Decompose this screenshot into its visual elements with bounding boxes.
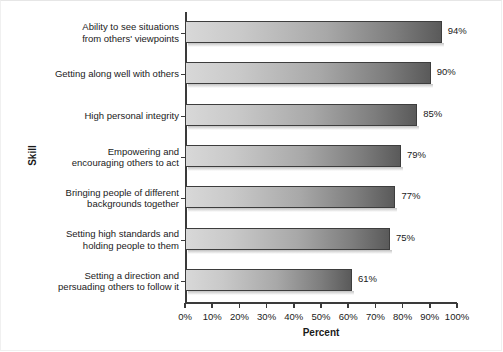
x-axis-tick <box>239 303 241 308</box>
bar-shadow <box>188 250 392 254</box>
x-axis-tick-label: 40% <box>284 311 303 322</box>
x-axis-tick <box>402 303 404 308</box>
x-axis-tick-label: 90% <box>420 311 439 322</box>
bar-row: 77% <box>185 186 457 210</box>
bar[interactable] <box>186 228 390 250</box>
bar[interactable] <box>186 62 431 84</box>
bar-value-label: 77% <box>401 190 420 201</box>
x-axis-tick <box>429 303 431 308</box>
bar-value-label: 75% <box>396 232 415 243</box>
bar-shadow <box>188 126 419 130</box>
bar-shadow <box>188 208 397 212</box>
bar-value-label: 94% <box>448 25 467 36</box>
x-axis-tick-label: 100% <box>445 311 469 322</box>
category-label-line: Getting along well with others <box>13 68 179 80</box>
x-axis-title: Percent <box>185 327 457 338</box>
x-axis-tick-label: 80% <box>393 311 412 322</box>
category-label-line: from others' viewpoints <box>13 33 179 45</box>
x-axis-tick <box>375 303 377 308</box>
x-axis-tick <box>320 303 322 308</box>
category-label-line: encouraging others to act <box>13 157 179 169</box>
bar-shadow <box>188 43 444 47</box>
bar-value-label: 79% <box>407 149 426 160</box>
bar-value-label: 85% <box>423 108 442 119</box>
category-label-line: Bringing people of different <box>13 187 179 199</box>
bar-shadow <box>188 291 354 295</box>
bar-row: 61% <box>185 269 457 293</box>
x-axis-tick-label: 50% <box>311 311 330 322</box>
bar-chart: Skill Ability to see situationsfrom othe… <box>0 0 503 352</box>
bar-shadow <box>188 84 433 88</box>
bar[interactable] <box>186 21 442 43</box>
x-axis-tick <box>347 303 349 308</box>
category-label-line: Setting a direction and <box>13 270 179 282</box>
category-label-line: Ability to see situations <box>13 21 179 33</box>
x-axis-tick <box>456 303 458 308</box>
x-axis-tick-label: 20% <box>230 311 249 322</box>
category-label-line: persuading others to follow it <box>13 281 179 293</box>
category-label: Setting high standards andholding people… <box>13 228 185 251</box>
x-axis-tick-label: 0% <box>178 311 192 322</box>
category-label: Empowering andencouraging others to act <box>13 146 185 169</box>
bar-row: 75% <box>185 228 457 252</box>
category-label: Setting a direction andpersuading others… <box>13 270 185 293</box>
bar-value-label: 90% <box>437 66 456 77</box>
bar[interactable] <box>186 186 395 208</box>
category-label-layer: Ability to see situationsfrom others' vi… <box>0 12 185 302</box>
plot-area: 0%10%20%30%40%50%60%70%80%90%100%94%90%8… <box>185 12 457 302</box>
bar-value-label: 61% <box>358 273 377 284</box>
bar[interactable] <box>186 104 417 126</box>
bar[interactable] <box>186 269 352 291</box>
category-label: Getting along well with others <box>13 68 185 80</box>
bar-row: 90% <box>185 62 457 86</box>
x-axis-tick-label: 60% <box>339 311 358 322</box>
x-axis-tick-label: 30% <box>257 311 276 322</box>
category-label: Bringing people of differentbackgrounds … <box>13 187 185 210</box>
bar[interactable] <box>186 145 401 167</box>
x-axis-tick <box>211 303 213 308</box>
x-axis-tick-label: 10% <box>203 311 222 322</box>
category-label-line: holding people to them <box>13 240 179 252</box>
category-label-line: backgrounds together <box>13 198 179 210</box>
category-label-line: High personal integrity <box>13 110 179 122</box>
category-label-line: Setting high standards and <box>13 228 179 240</box>
bar-row: 94% <box>185 21 457 45</box>
bar-shadow <box>188 167 403 171</box>
x-axis-tick <box>266 303 268 308</box>
x-axis-tick <box>184 303 186 308</box>
category-label: High personal integrity <box>13 110 185 122</box>
category-label: Ability to see situationsfrom others' vi… <box>13 21 185 44</box>
x-axis-tick-label: 70% <box>366 311 385 322</box>
bar-row: 79% <box>185 145 457 169</box>
category-label-line: Empowering and <box>13 146 179 158</box>
bar-row: 85% <box>185 104 457 128</box>
x-axis-tick <box>293 303 295 308</box>
